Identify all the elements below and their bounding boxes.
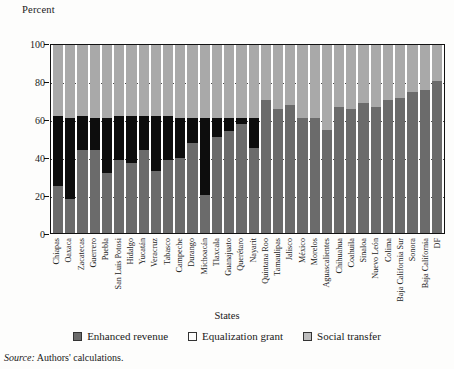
x-axis-tick-label: Puebla xyxy=(102,238,110,260)
bar-segment-social xyxy=(90,45,100,118)
bar-stack[interactable] xyxy=(162,45,174,233)
bar-segment-social xyxy=(77,45,87,116)
bar-stack[interactable] xyxy=(272,45,284,233)
x-axis-tick: Tlaxcala xyxy=(211,236,223,320)
x-axis-tick-labels: ChiapasOaxacaZacatecasGuerreroPueblaSan … xyxy=(50,236,445,320)
x-axis-tick: Morelos xyxy=(309,236,321,320)
bar-segment-enhanced xyxy=(310,118,320,233)
x-axis-tick-label: Sinaloa xyxy=(360,238,368,263)
bar-stack[interactable] xyxy=(113,45,125,233)
x-axis-tick-label: Nayarit xyxy=(250,238,258,263)
bar-segment-enhanced xyxy=(53,186,63,233)
bar-segment-enhanced xyxy=(322,130,332,233)
x-axis-tick-label: Guanajuato xyxy=(225,238,233,276)
bar-stack[interactable] xyxy=(309,45,321,233)
bar-stack[interactable] xyxy=(370,45,382,233)
bar-segment-social xyxy=(249,45,259,118)
bar-stack[interactable] xyxy=(52,45,64,233)
plot-area xyxy=(50,44,445,234)
bar-stack[interactable] xyxy=(89,45,101,233)
x-axis-tick: Querétaro xyxy=(235,236,247,320)
bar-segment-social xyxy=(273,45,283,109)
bar-stack[interactable] xyxy=(431,45,443,233)
bar-segment-enhanced xyxy=(261,100,271,233)
bar-segment-enhanced xyxy=(383,100,393,233)
bar-segment-equal xyxy=(90,118,100,150)
bar-segment-enhanced xyxy=(358,103,368,233)
x-axis-tick: Coahuila xyxy=(346,236,358,320)
bar-stack[interactable] xyxy=(64,45,76,233)
x-axis-tick-label: Zacatecas xyxy=(78,238,86,270)
x-axis-tick: Yucatán xyxy=(137,236,149,320)
bar-stack[interactable] xyxy=(76,45,88,233)
x-axis-tick-label: Yucatán xyxy=(139,238,147,264)
y-axis-tick-label: 0 xyxy=(5,229,45,240)
bar-segment-social xyxy=(175,45,185,118)
legend-item[interactable]: Social transfer xyxy=(303,330,381,342)
x-axis-title: States xyxy=(0,310,454,321)
bar-stack[interactable] xyxy=(138,45,150,233)
bar-stack[interactable] xyxy=(345,45,357,233)
bar-segment-equal xyxy=(187,118,197,142)
bar-stack[interactable] xyxy=(211,45,223,233)
x-axis-tick: Guerrero xyxy=(88,236,100,320)
x-axis-tick-label: Colima xyxy=(385,238,393,262)
y-axis-tick-mark xyxy=(44,82,49,83)
x-axis-tick-label: Jalisco xyxy=(286,238,294,260)
x-axis-tick: Campeche xyxy=(174,236,186,320)
bar-segment-social xyxy=(261,45,271,100)
legend-item[interactable]: Equalization grant xyxy=(188,330,283,342)
legend-item[interactable]: Enhanced revenue xyxy=(73,330,168,342)
bar-stack[interactable] xyxy=(260,45,272,233)
chart-legend: Enhanced revenueEqualization grantSocial… xyxy=(0,330,454,342)
x-axis-tick: Guanajuato xyxy=(223,236,235,320)
bar-segment-social xyxy=(102,45,112,118)
bar-segment-enhanced xyxy=(114,160,124,233)
bar-stack[interactable] xyxy=(382,45,394,233)
bar-stack[interactable] xyxy=(223,45,235,233)
bar-stack[interactable] xyxy=(101,45,113,233)
x-axis-tick: Aguascalientes xyxy=(321,236,333,320)
figure-container: Percent 020406080100 ChiapasOaxacaZacate… xyxy=(0,0,454,369)
bar-stack[interactable] xyxy=(199,45,211,233)
bar-stack[interactable] xyxy=(321,45,333,233)
bar-segment-enhanced xyxy=(65,199,75,233)
source-note: Source: Authors' calculations. xyxy=(4,352,123,363)
x-axis-tick: San Luis Potosi xyxy=(112,236,124,320)
bar-stack[interactable] xyxy=(357,45,369,233)
bar-stack[interactable] xyxy=(186,45,198,233)
bar-stack[interactable] xyxy=(248,45,260,233)
x-axis-tick: DF xyxy=(432,236,444,320)
bar-stack[interactable] xyxy=(150,45,162,233)
bar-segment-social xyxy=(346,45,356,109)
bar-stack[interactable] xyxy=(419,45,431,233)
bar-stack[interactable] xyxy=(174,45,186,233)
bar-segment-social xyxy=(53,45,63,116)
bar-segment-equal xyxy=(126,116,136,163)
bar-segment-social xyxy=(297,45,307,118)
bar-segment-enhanced xyxy=(249,148,259,233)
y-axis-title: Percent xyxy=(22,4,55,15)
bar-segment-social xyxy=(395,45,405,98)
bar-stack[interactable] xyxy=(406,45,418,233)
bar-stack[interactable] xyxy=(394,45,406,233)
bar-segment-social xyxy=(358,45,368,103)
bar-stack[interactable] xyxy=(284,45,296,233)
y-axis-tick-label: 80 xyxy=(5,77,45,88)
bar-stack[interactable] xyxy=(125,45,137,233)
x-axis-tick: México xyxy=(297,236,309,320)
y-axis-tick-mark xyxy=(44,44,49,45)
x-axis-tick-label: Querétaro xyxy=(237,238,245,271)
x-axis-tick-label: San Luis Potosi xyxy=(114,238,122,289)
bar-segment-social xyxy=(432,45,442,81)
bar-stack[interactable] xyxy=(333,45,345,233)
x-axis-tick-label: Aguascalientes xyxy=(323,238,331,288)
bar-segment-social xyxy=(212,45,222,118)
bar-stack[interactable] xyxy=(296,45,308,233)
bar-segment-equal xyxy=(224,118,234,131)
bar-stack[interactable] xyxy=(235,45,247,233)
bar-segment-equal xyxy=(77,116,87,150)
x-axis-tick-label: Tlaxcala xyxy=(213,238,221,266)
x-axis-tick: Chihuahua xyxy=(333,236,345,320)
bar-segment-social xyxy=(334,45,344,107)
